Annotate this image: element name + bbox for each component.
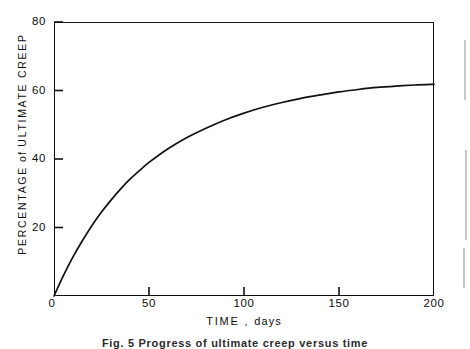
scan-artifact bbox=[465, 150, 467, 240]
x-tick-label-50: 50 bbox=[142, 298, 156, 310]
y-tick-marks bbox=[54, 22, 63, 228]
chart-canvas bbox=[54, 22, 434, 296]
y-axis-title-lower: of bbox=[16, 151, 28, 162]
scan-artifact bbox=[464, 40, 466, 100]
x-axis-title-main: TIME bbox=[206, 315, 239, 327]
x-tick-marks bbox=[149, 287, 339, 296]
x-axis-title-unit: days bbox=[254, 315, 282, 327]
scan-artifact bbox=[463, 248, 465, 288]
x-tick-label-0: 0 bbox=[49, 298, 56, 310]
x-axis-title: TIME , days bbox=[54, 315, 434, 327]
creep-curve-line bbox=[54, 84, 434, 296]
y-axis-title-main: PERCENTAGE bbox=[16, 166, 28, 255]
figure-caption: Fig. 5 Progress of ultimate creep versus… bbox=[0, 337, 470, 349]
x-tick-label-100: 100 bbox=[234, 298, 255, 310]
y-axis-title-tail: ULTIMATE CREEP bbox=[16, 33, 28, 146]
x-tick-label-200: 200 bbox=[424, 298, 445, 310]
y-axis-title: PERCENTAGE of ULTIMATE CREEP bbox=[16, 29, 28, 259]
y-tick-label-80: 80 bbox=[2, 16, 46, 28]
x-tick-label-150: 150 bbox=[329, 298, 350, 310]
